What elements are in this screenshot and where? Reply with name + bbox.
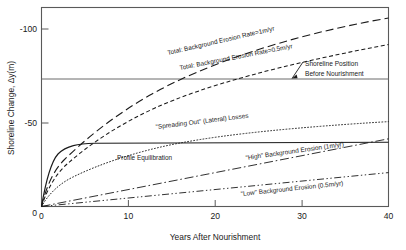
y-tick-label-zero: 0 bbox=[32, 208, 37, 218]
chart-figure: -100 -50 0 0 10 20 30 40 Shoreline Chang… bbox=[0, 0, 406, 250]
annotation-shoreline-position-line2: Before Nourishment bbox=[305, 70, 364, 77]
x-tick-label-0: 0 bbox=[39, 211, 44, 221]
x-tick-label-10: 10 bbox=[124, 211, 134, 221]
x-axis-title: Years After Nourishment bbox=[170, 232, 261, 242]
x-tick-label-30: 30 bbox=[297, 211, 307, 221]
y-tick-label-minus100: -100 bbox=[20, 24, 37, 34]
y-tick-label-minus50: -50 bbox=[25, 118, 38, 128]
annotation-profile-equilibration: Profile Equilibration bbox=[117, 154, 173, 162]
y-axis-title: Shoreline Change, Δy(m) bbox=[6, 61, 16, 155]
x-tick-label-20: 20 bbox=[210, 211, 220, 221]
x-tick-label-40: 40 bbox=[384, 211, 394, 221]
annotation-shoreline-position-line1: Shoreline Position bbox=[305, 60, 358, 67]
chart-background bbox=[0, 0, 406, 250]
shoreline-change-line-chart: -100 -50 0 0 10 20 30 40 Shoreline Chang… bbox=[0, 0, 406, 250]
